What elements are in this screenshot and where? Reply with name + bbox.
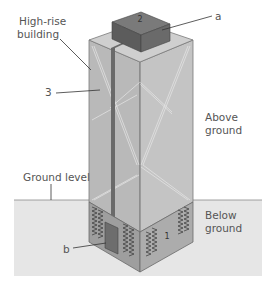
label-below-line2: ground <box>205 222 242 234</box>
shaft <box>111 48 115 218</box>
label-above-line2: ground <box>205 124 242 136</box>
base-block <box>105 222 118 254</box>
label-ground-level: Ground level <box>23 171 90 183</box>
label-b: b <box>63 243 70 255</box>
label-below-line1: Below <box>205 209 237 221</box>
building-right-face <box>140 40 193 232</box>
label-a: a <box>215 10 221 22</box>
label-high-rise-line1: High-rise <box>19 15 66 27</box>
label-above-line1: Above <box>205 111 238 123</box>
label-1: 1 <box>164 232 169 241</box>
label-high-rise-line2: building <box>17 28 59 40</box>
label-2: 2 <box>137 15 142 24</box>
label-3: 3 <box>45 86 52 98</box>
building-diagram: 2 1 High-rise building 3 a Above ground … <box>0 0 276 288</box>
